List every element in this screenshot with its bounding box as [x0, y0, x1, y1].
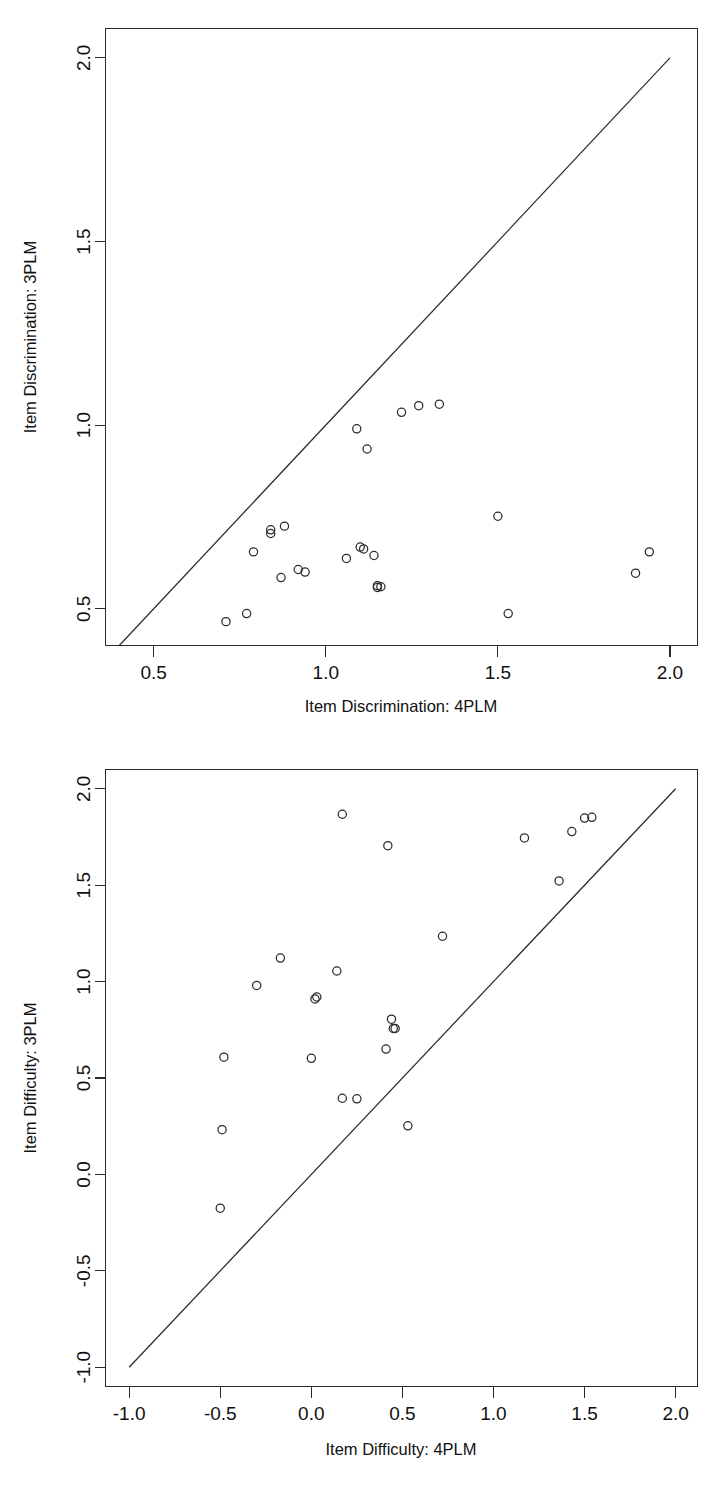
y-tick-label: -0.5	[73, 1254, 94, 1287]
y-tick-label: 2.0	[73, 776, 94, 802]
data-points-group	[222, 400, 654, 626]
data-point	[280, 522, 288, 530]
y-tick-label: 1.0	[73, 412, 94, 438]
data-point	[382, 1045, 390, 1053]
y-tick-label: 0.5	[73, 1065, 94, 1091]
y-tick-label: 2.0	[73, 45, 94, 71]
y-axis-ticks	[95, 58, 106, 609]
x-tick-label: 0.0	[298, 1403, 324, 1424]
data-point	[494, 512, 502, 520]
x-axis-title: Item Difficulty: 4PLM	[326, 1440, 477, 1458]
x-tick-label: 1.0	[313, 662, 339, 683]
x-tick-label: 1.5	[571, 1403, 597, 1424]
x-axis-title: Item Discrimination: 4PLM	[305, 697, 498, 715]
data-point	[249, 548, 257, 556]
data-point	[353, 1095, 361, 1103]
y-tick-label: 1.0	[73, 968, 94, 994]
data-point	[520, 834, 528, 842]
data-point	[384, 842, 392, 850]
y-tick-label: 1.5	[73, 872, 94, 898]
y-tick-label: 0.5	[73, 596, 94, 622]
identity-line	[119, 58, 670, 646]
y-tick-label: -1.0	[73, 1351, 94, 1384]
x-tick-label: 2.0	[662, 1403, 688, 1424]
x-tick-label: 1.5	[485, 662, 511, 683]
y-axis-ticks	[95, 789, 106, 1367]
data-point	[397, 408, 405, 416]
data-point	[338, 1094, 346, 1102]
data-point	[353, 425, 361, 433]
identity-reference-line	[119, 58, 670, 646]
data-point	[277, 573, 285, 581]
x-tick-label: 0.5	[140, 662, 166, 683]
x-axis-ticks	[129, 1387, 675, 1398]
x-tick-label: -0.5	[204, 1403, 237, 1424]
y-axis-title: Item Difficulty: 3PLM	[21, 1003, 39, 1154]
data-point	[311, 995, 319, 1003]
data-point	[243, 609, 251, 617]
plot-frame	[106, 770, 698, 1387]
data-point	[438, 932, 446, 940]
scatter-figure: 0.51.01.52.0 0.51.01.52.0 Item Discrimin…	[0, 0, 728, 1503]
x-tick-label: 0.5	[389, 1403, 415, 1424]
data-point	[645, 548, 653, 556]
data-point	[338, 810, 346, 818]
x-axis-tick-labels: -1.0-0.50.00.51.01.52.0	[113, 1403, 689, 1424]
data-point	[504, 609, 512, 617]
data-point	[301, 568, 309, 576]
data-point	[220, 1053, 228, 1061]
y-tick-label: 1.5	[73, 228, 94, 254]
discrimination-panel: 0.51.01.52.0 0.51.01.52.0 Item Discrimin…	[0, 0, 728, 751]
x-tick-label: 1.0	[480, 1403, 506, 1424]
data-point	[387, 1015, 395, 1023]
data-point	[333, 967, 341, 975]
data-point	[363, 445, 371, 453]
difficulty-panel: -1.0-0.50.00.51.01.52.0 -1.0-0.50.00.51.…	[0, 751, 728, 1503]
y-tick-label: 0.0	[73, 1161, 94, 1187]
identity-reference-line	[129, 789, 675, 1367]
identity-line	[129, 789, 675, 1367]
data-point	[555, 877, 563, 885]
data-point	[253, 981, 261, 989]
x-axis-ticks	[154, 646, 670, 657]
data-point	[222, 618, 230, 626]
data-point	[342, 554, 350, 562]
data-point	[218, 1126, 226, 1134]
data-point	[307, 1054, 315, 1062]
data-point	[568, 827, 576, 835]
data-point	[276, 954, 284, 962]
data-point	[216, 1204, 224, 1212]
data-point	[435, 400, 443, 408]
x-tick-label: -1.0	[113, 1403, 146, 1424]
data-point	[631, 569, 639, 577]
x-axis-tick-labels: 0.51.01.52.0	[140, 662, 683, 683]
data-point	[313, 993, 321, 1001]
plot-frame	[106, 29, 698, 646]
y-axis-tick-labels: -1.0-0.50.00.51.01.52.0	[73, 776, 94, 1384]
data-point	[415, 402, 423, 410]
x-tick-label: 2.0	[657, 662, 683, 683]
discrimination-plot-svg: 0.51.01.52.0 0.51.01.52.0 Item Discrimin…	[0, 0, 728, 751]
data-point	[404, 1122, 412, 1130]
y-axis-tick-labels: 0.51.01.52.0	[73, 45, 94, 622]
difficulty-plot-svg: -1.0-0.50.00.51.01.52.0 -1.0-0.50.00.51.…	[0, 751, 728, 1503]
y-axis-title: Item Discrimination: 3PLM	[21, 241, 39, 434]
data-point	[370, 551, 378, 559]
data-points-group	[216, 810, 596, 1212]
